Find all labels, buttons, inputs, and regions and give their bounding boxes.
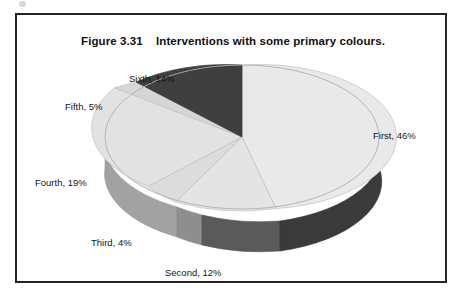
pie-label-fifth: Fifth, 5%: [65, 101, 103, 112]
figure-page: Figure 3.31 Interventions with some prim…: [0, 0, 462, 299]
pie-top-face: [92, 64, 397, 210]
pie-chart: First, 46% Second, 12% Third, 4% Fourth,…: [17, 15, 449, 285]
scan-artifact-speck: [19, 1, 26, 7]
figure-frame: Figure 3.31 Interventions with some prim…: [15, 13, 447, 283]
side-wall-second: [202, 215, 280, 252]
pie-chart-svg: [17, 15, 449, 285]
pie-label-sixth: Sixth, 14%: [129, 73, 174, 84]
side-wall-third: [177, 207, 202, 245]
pie-label-third: Third, 4%: [91, 237, 132, 248]
pie-label-first: First, 46%: [373, 130, 416, 141]
pie-label-fourth: Fourth, 19%: [35, 177, 87, 188]
pie-label-second: Second, 12%: [165, 267, 222, 278]
